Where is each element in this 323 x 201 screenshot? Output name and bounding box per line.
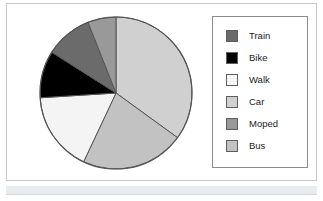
- legend-item-walk[interactable]: Walk: [213, 69, 307, 91]
- legend-swatch-car: [226, 96, 238, 108]
- legend-label-car: Car: [249, 97, 264, 107]
- legend-swatch-walk: [226, 74, 238, 86]
- legend-item-bus[interactable]: Bus: [213, 135, 307, 157]
- legend-swatch-bus: [226, 140, 238, 152]
- legend-swatch-moped: [226, 118, 238, 130]
- chart-screenshot: Train Bike Walk Car Moped Bus: [0, 0, 323, 201]
- legend-item-car[interactable]: Car: [213, 91, 307, 113]
- pie-svg: [37, 14, 195, 172]
- legend-item-bike[interactable]: Bike: [213, 47, 307, 69]
- legend-label-bus: Bus: [249, 141, 265, 151]
- legend-label-moped: Moped: [249, 119, 278, 129]
- bottom-strip: [6, 186, 317, 195]
- legend-label-walk: Walk: [249, 75, 270, 85]
- legend-label-train: Train: [249, 31, 270, 41]
- legend-item-moped[interactable]: Moped: [213, 113, 307, 135]
- legend: Train Bike Walk Car Moped Bus: [212, 16, 308, 168]
- legend-swatch-bike: [226, 52, 238, 64]
- legend-label-bike: Bike: [249, 53, 267, 63]
- pie-chart: [37, 14, 195, 172]
- pie-slice-group: [40, 17, 192, 169]
- legend-swatch-train: [226, 30, 238, 42]
- legend-item-train[interactable]: Train: [213, 25, 307, 47]
